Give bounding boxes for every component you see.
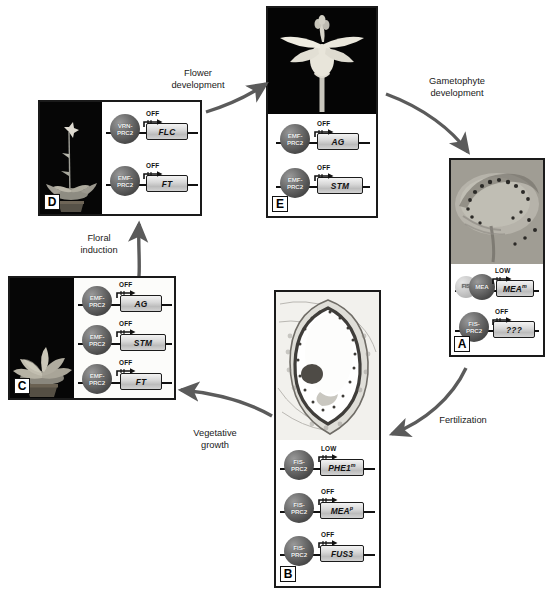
expression-state: OFF (495, 308, 508, 315)
gene-row: EMF- PRC2 OFF FT (78, 360, 172, 394)
prc2-complex-circle: EMF- PRC2 (110, 166, 140, 196)
panel-letter-B: B (280, 566, 296, 582)
arrow-gametophyte-development (386, 94, 468, 152)
expression-state: LOW (495, 267, 511, 274)
expression-state: OFF (321, 531, 334, 538)
panel-D-genes: VRN- PRC2 OFF FLC EMF- PRC2 OFF (102, 102, 200, 214)
expression-state: OFF (317, 164, 330, 171)
gene-row: FIS MEA LOW MEAm (455, 268, 539, 302)
gene-row: EMF- PRC2 OFF STM (78, 321, 172, 355)
expression-state: OFF (146, 162, 159, 169)
gene-row: EMF- PRC2 OFF FT (106, 162, 198, 196)
transcription-start-arrow (314, 172, 336, 184)
panel-letter-D: D (44, 194, 60, 210)
arrow-floral-induction (139, 224, 140, 276)
gene-row: FIS- PRC2 OFF MEAp (280, 489, 375, 523)
transcription-start-arrow (116, 289, 138, 301)
cycle-label-floral-induction: Floral induction (66, 233, 132, 256)
panel-letter-A: A (454, 336, 470, 352)
panel-C: EMF- PRC2 OFF AG EMF- PRC2 OFF (8, 276, 176, 400)
panel-B: FIS- PRC2 LOW PHE1m FIS- PRC2 OFF (274, 290, 381, 588)
transcription-start-arrow (492, 316, 514, 328)
expression-state: OFF (119, 320, 132, 327)
prc2-complex-circle: EMF- PRC2 (280, 168, 310, 198)
transcription-start-arrow (143, 170, 165, 182)
gene-row: FIS- PRC2 LOW PHE1m (280, 446, 375, 480)
arrow-vegetative-growth (181, 390, 272, 416)
panel-A: FIS MEA LOW MEAm FIS- PRC2 (449, 158, 545, 357)
gene-row: FIS- PRC2 OFF FUS3 (280, 532, 375, 566)
transcription-start-arrow (143, 118, 165, 130)
gene-row: EMF- PRC2 OFF STM (276, 164, 370, 198)
cycle-label-gametophyte-development: Gametophyte development (407, 76, 507, 99)
panel-B-genes: FIS- PRC2 LOW PHE1m FIS- PRC2 OFF (276, 440, 379, 586)
panel-E: EMF- PRC2 OFF AG EMF- PRC2 OFF (266, 6, 378, 218)
prc2-complex-circle: FIS- PRC2 (284, 493, 314, 523)
panel-E-photo (268, 8, 376, 114)
prc2-complex-circle: EMF- PRC2 (82, 286, 112, 316)
panel-B-photo (276, 292, 379, 440)
gene-row: EMF- PRC2 OFF AG (78, 282, 172, 316)
panel-letter-C: C (14, 378, 30, 394)
expression-state: LOW (321, 445, 337, 452)
panel-D: VRN- PRC2 OFF FLC EMF- PRC2 OFF (38, 100, 202, 216)
cycle-label-flower-development: Flower development (155, 68, 241, 91)
prc2-complex-circle: EMF- PRC2 (280, 124, 310, 154)
prc2-complex-circle: FIS- PRC2 (284, 536, 314, 566)
panel-C-genes: EMF- PRC2 OFF AG EMF- PRC2 OFF (74, 278, 174, 398)
prc2-complex-circle: VRN- PRC2 (110, 114, 140, 144)
gene-row: EMF- PRC2 OFF AG (276, 120, 370, 154)
panel-A-photo (451, 160, 543, 264)
expression-state: OFF (321, 488, 334, 495)
cycle-label-fertilization: Fertilization (422, 415, 504, 427)
prc2-complex-circle: EMF- PRC2 (82, 325, 112, 355)
prc2-complex-circle: EMF- PRC2 (82, 364, 112, 394)
prc2-complex-circle: FIS- PRC2 (284, 450, 314, 480)
transcription-start-arrow (318, 496, 340, 508)
transcription-start-arrow (116, 367, 138, 379)
panel-letter-E: E (272, 196, 288, 212)
cycle-label-vegetative-growth: Vegetative growth (176, 428, 254, 451)
transcription-start-arrow (318, 453, 340, 465)
expression-state: OFF (119, 281, 132, 288)
transcription-start-arrow (318, 539, 340, 551)
gene-row: VRN- PRC2 OFF FLC (106, 110, 198, 144)
transcription-start-arrow (492, 275, 514, 287)
transcription-start-arrow (116, 328, 138, 340)
figure-canvas: Flower development Gametophyte developme… (0, 0, 550, 605)
expression-state: OFF (146, 110, 159, 117)
transcription-start-arrow (314, 128, 336, 140)
expression-state: OFF (317, 120, 330, 127)
expression-state: OFF (119, 359, 132, 366)
